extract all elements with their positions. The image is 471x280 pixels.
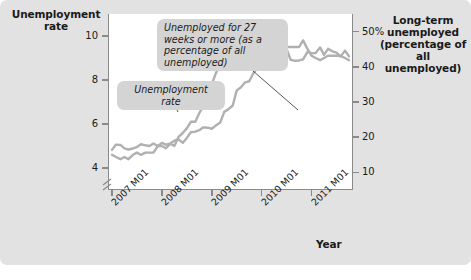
- y-right-tick-mark: [353, 136, 359, 138]
- y-right-tick-mark: [353, 31, 359, 33]
- y-left-tick-mark: [102, 123, 108, 125]
- annotation-unemployment-rate: Unemployment rate: [117, 81, 225, 110]
- left-axis-title: Unemployment rate: [10, 8, 102, 32]
- y-left-tick-label: 10: [72, 30, 98, 41]
- y-right-tick-mark: [353, 66, 359, 68]
- y-right-tick-label: 50%: [362, 26, 392, 37]
- chart-figure: Unemployment rate Long-term unemployed (…: [0, 0, 471, 280]
- y-right-tick-label: 10: [362, 166, 392, 177]
- y-left-tick-label: 6: [72, 118, 98, 129]
- y-right-tick-label: 20: [362, 131, 392, 142]
- y-left-tick-mark: [102, 35, 108, 37]
- y-right-tick-mark: [353, 172, 359, 174]
- y-left-tick-label: 8: [72, 74, 98, 85]
- y-left-tick-mark: [102, 167, 108, 169]
- y-left-tick-mark: [102, 79, 108, 81]
- y-left-tick-label: 4: [72, 162, 98, 173]
- annotation-longterm: Unemployed for 27 weeks or more (as a pe…: [157, 19, 288, 71]
- y-right-tick-label: 30: [362, 96, 392, 107]
- y-right-tick-label: 40: [362, 61, 392, 72]
- y-right-tick-mark: [353, 101, 359, 103]
- x-axis-title: Year: [316, 238, 376, 250]
